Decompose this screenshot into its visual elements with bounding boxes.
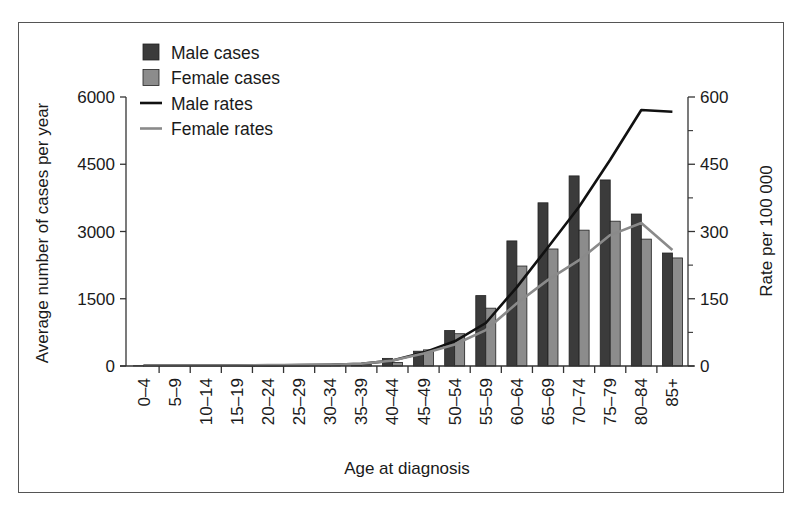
bar-female xyxy=(672,258,682,366)
y-tick-label: 0 xyxy=(106,357,115,376)
x-tick-label: 70–74 xyxy=(570,378,589,425)
legend-label: Female rates xyxy=(171,119,273,139)
line-female-rates xyxy=(144,223,673,366)
legend-label: Male rates xyxy=(171,94,253,114)
x-tick-label: 80–84 xyxy=(632,378,651,425)
x-tick-label: 15–19 xyxy=(228,378,247,425)
bar-female xyxy=(579,230,589,366)
legend-label: Female cases xyxy=(171,68,280,88)
y-axis-title: Average number of cases per year xyxy=(33,102,52,363)
x-axis-title: Age at diagnosis xyxy=(344,459,470,478)
y-tick-label: 3000 xyxy=(77,223,115,242)
x-tick-label: 75–79 xyxy=(601,378,620,425)
bar-male xyxy=(631,214,641,366)
bar-series xyxy=(134,176,683,366)
x-tick-label: 35–39 xyxy=(352,378,371,425)
y2-axis-title: Rate per 100 000 xyxy=(757,165,776,296)
x-tick-label: 50–54 xyxy=(446,378,465,425)
y2-tick-label: 450 xyxy=(700,155,728,174)
x-tick-label: 0–4 xyxy=(135,378,154,406)
bar-male xyxy=(600,180,610,366)
y-tick-label: 6000 xyxy=(77,88,115,107)
bar-female xyxy=(610,221,620,366)
x-tick-label: 55–59 xyxy=(477,378,496,425)
x-tick-label: 40–44 xyxy=(383,378,402,425)
bar-male xyxy=(662,253,672,366)
y2-tick-label: 300 xyxy=(700,223,728,242)
bar-female xyxy=(641,239,651,366)
bar-male xyxy=(569,176,579,366)
x-tick-label: 30–34 xyxy=(321,378,340,425)
legend: Male casesFemale casesMale ratesFemale r… xyxy=(140,43,280,140)
y-tick-label: 4500 xyxy=(77,155,115,174)
x-tick-label: 45–49 xyxy=(415,378,434,425)
x-tick-label: 10–14 xyxy=(197,378,216,425)
x-tick-label: 60–64 xyxy=(508,378,527,425)
x-tick-label: 5–9 xyxy=(166,378,185,406)
bar-female xyxy=(548,249,558,366)
x-tick-label: 65–69 xyxy=(539,378,558,425)
y2-tick-label: 0 xyxy=(700,357,709,376)
y2-tick-label: 150 xyxy=(700,290,728,309)
y2-tick-label: 600 xyxy=(700,88,728,107)
x-tick-label: 20–24 xyxy=(259,378,278,425)
y-tick-label: 1500 xyxy=(77,290,115,309)
legend-swatch-box xyxy=(143,44,159,60)
legend-label: Male cases xyxy=(171,43,260,63)
x-tick-label: 25–29 xyxy=(290,378,309,425)
chart-canvas: 0150030004500600001503004506000–45–910–1… xyxy=(0,0,807,512)
line-male-rates xyxy=(144,110,673,366)
x-tick-label: 85+ xyxy=(663,378,682,407)
legend-swatch-box xyxy=(143,70,159,86)
rate-lines xyxy=(144,110,673,366)
